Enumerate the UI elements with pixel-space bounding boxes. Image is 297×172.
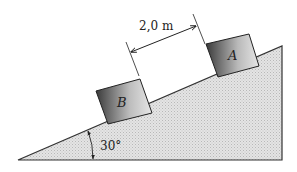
angle-label: 30°: [100, 139, 121, 153]
extension-line-left: [126, 42, 139, 76]
extension-line-right: [193, 14, 205, 44]
block-a-label: A: [227, 48, 237, 63]
block-b-label: B: [116, 95, 127, 110]
inclined-plane-diagram: 30° B A 2,0 m: [0, 0, 297, 172]
distance-label: 2,0 m: [139, 19, 174, 33]
